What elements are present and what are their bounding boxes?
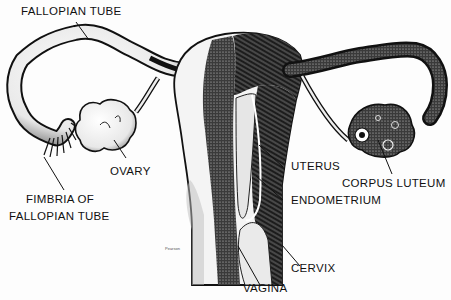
- label-corpus-luteum: CORPUS LUTEUM: [342, 177, 446, 190]
- diagram-illustration: [0, 0, 451, 300]
- label-ovary: OVARY: [110, 165, 151, 178]
- label-cervix: CERVIX: [291, 262, 335, 275]
- label-vagina: VAGINA: [243, 282, 287, 295]
- left-ovary: [76, 78, 159, 151]
- label-uterus: UTERUS: [291, 160, 340, 173]
- label-fimbria-line2: FALLOPIAN TUBE: [9, 210, 110, 223]
- artist-signature: Pearson: [165, 246, 180, 251]
- label-fallopian-tube: FALLOPIAN TUBE: [21, 5, 122, 18]
- label-fimbria-line1: FIMBRIA OF: [26, 193, 94, 206]
- label-endometrium: ENDOMETRIUM: [291, 194, 381, 207]
- anatomy-diagram: FALLOPIAN TUBE OVARY FIMBRIA OF FALLOPIA…: [0, 0, 451, 300]
